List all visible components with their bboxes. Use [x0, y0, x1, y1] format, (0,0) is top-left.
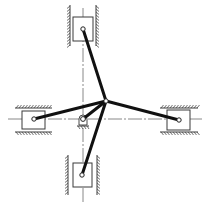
top-link	[83, 29, 106, 101]
ground-hatch	[197, 105, 200, 108]
fixed-pivot-joint	[81, 117, 86, 122]
pin-joint-bottom	[80, 173, 84, 177]
central-joint	[104, 99, 108, 103]
pin-joint-left	[32, 117, 36, 121]
ground-hatch	[67, 45, 70, 48]
ground-hatch	[96, 45, 99, 48]
pins-group	[32, 27, 181, 177]
linkage-diagram	[0, 0, 209, 208]
pin-joint-right	[177, 118, 181, 122]
pin-joint-top	[81, 27, 85, 31]
ground-hatch	[197, 132, 200, 135]
